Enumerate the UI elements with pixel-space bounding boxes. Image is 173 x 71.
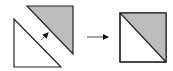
join-arrow-icon <box>41 33 48 40</box>
triangles-to-square-diagram <box>0 0 173 71</box>
result-square <box>120 13 166 62</box>
diagram-canvas <box>0 0 173 71</box>
separated-triangles <box>14 6 73 67</box>
